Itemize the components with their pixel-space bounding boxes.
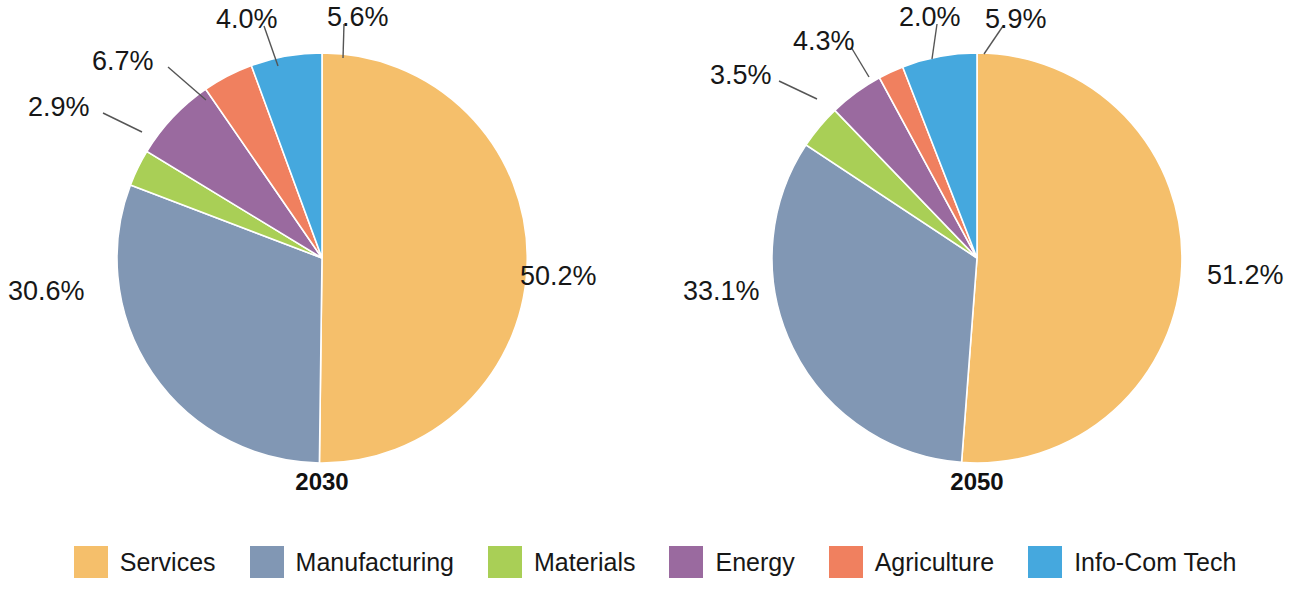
legend-swatch-icon bbox=[74, 546, 108, 578]
pie-chart-figure: 50.2%30.6%2.9%6.7%4.0%5.6% 2030 51.2%33.… bbox=[0, 0, 1310, 598]
legend-item-materials[interactable]: Materials bbox=[488, 546, 635, 578]
pie-chart-2030: 50.2%30.6%2.9%6.7%4.0%5.6% 2030 bbox=[0, 0, 655, 520]
legend-label: Materials bbox=[534, 550, 635, 575]
slice-value-label: 5.6% bbox=[327, 4, 389, 31]
pie-slices-2030 bbox=[117, 53, 527, 463]
slice-value-label: 5.9% bbox=[985, 6, 1047, 33]
legend-swatch-icon bbox=[1028, 546, 1062, 578]
legend-label: Manufacturing bbox=[296, 550, 454, 575]
chart-legend: ServicesManufacturingMaterialsEnergyAgri… bbox=[0, 528, 1310, 596]
year-label-2030: 2030 bbox=[262, 470, 382, 494]
leader-line bbox=[168, 67, 206, 100]
slice-value-label: 2.9% bbox=[28, 94, 90, 121]
pie-chart-2050: 51.2%33.1%3.5%4.3%2.0%5.9% 2050 bbox=[655, 0, 1310, 520]
pie-slice-services[interactable] bbox=[319, 53, 527, 463]
pie-slices-2050 bbox=[772, 53, 1182, 463]
slice-value-label: 33.1% bbox=[683, 278, 760, 305]
slice-value-label: 3.5% bbox=[710, 62, 772, 89]
slice-value-label: 2.0% bbox=[899, 4, 961, 31]
legend-label: Agriculture bbox=[875, 550, 995, 575]
legend-item-agriculture[interactable]: Agriculture bbox=[829, 546, 995, 578]
legend-label: Services bbox=[120, 550, 216, 575]
slice-value-label: 4.0% bbox=[216, 6, 278, 33]
slice-value-label: 30.6% bbox=[8, 278, 85, 305]
charts-row: 50.2%30.6%2.9%6.7%4.0%5.6% 2030 51.2%33.… bbox=[0, 0, 1310, 520]
leader-line bbox=[103, 113, 142, 132]
slice-value-label: 50.2% bbox=[520, 263, 597, 290]
legend-swatch-icon bbox=[669, 546, 703, 578]
legend-item-energy[interactable]: Energy bbox=[669, 546, 794, 578]
slice-value-label: 51.2% bbox=[1207, 262, 1284, 289]
legend-swatch-icon bbox=[488, 546, 522, 578]
slice-value-label: 4.3% bbox=[793, 28, 855, 55]
slice-value-label: 6.7% bbox=[92, 48, 154, 75]
legend-label: Info-Com Tech bbox=[1074, 550, 1236, 575]
leader-line bbox=[779, 81, 817, 99]
legend-item-manufacturing[interactable]: Manufacturing bbox=[250, 546, 454, 578]
legend-item-info-com-tech[interactable]: Info-Com Tech bbox=[1028, 546, 1236, 578]
pie-slice-services[interactable] bbox=[962, 53, 1182, 463]
legend-label: Energy bbox=[715, 550, 794, 575]
year-label-2050: 2050 bbox=[917, 470, 1037, 494]
legend-item-services[interactable]: Services bbox=[74, 546, 216, 578]
pie-svg-2030 bbox=[0, 0, 655, 520]
legend-swatch-icon bbox=[829, 546, 863, 578]
legend-swatch-icon bbox=[250, 546, 284, 578]
